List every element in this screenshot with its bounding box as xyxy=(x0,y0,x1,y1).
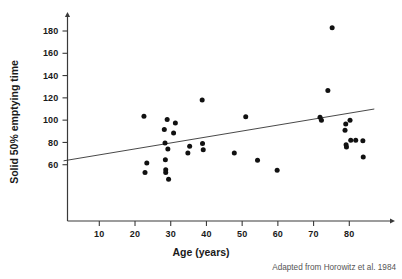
y-tick-label: 160 xyxy=(43,48,59,58)
data-point xyxy=(143,170,148,175)
data-point xyxy=(243,114,248,119)
data-point xyxy=(319,118,324,123)
data-point xyxy=(232,151,237,156)
data-point xyxy=(166,177,171,182)
y-tick-label: 180 xyxy=(43,26,59,36)
x-tick-label: 30 xyxy=(166,229,176,239)
data-point xyxy=(163,140,168,145)
data-point xyxy=(163,170,168,175)
y-tick-label: 80 xyxy=(48,138,58,148)
x-tick-label: 60 xyxy=(273,229,283,239)
data-point xyxy=(344,144,349,149)
data-point xyxy=(144,161,149,166)
x-tick-label: 70 xyxy=(308,229,318,239)
data-point xyxy=(343,122,348,127)
data-point xyxy=(200,98,205,103)
data-point xyxy=(325,88,330,93)
data-point xyxy=(348,118,353,123)
data-point xyxy=(200,141,205,146)
data-point xyxy=(165,117,170,122)
x-axis-title: Age (years) xyxy=(172,246,229,258)
data-point xyxy=(162,127,167,132)
data-point xyxy=(361,154,366,159)
data-point xyxy=(348,138,353,143)
y-axis-title: Solid 50% emptying time xyxy=(8,60,20,184)
data-point xyxy=(255,158,260,163)
data-point xyxy=(187,144,192,149)
x-tick-label: 50 xyxy=(237,229,247,239)
data-point xyxy=(353,138,358,143)
data-point xyxy=(141,114,146,119)
x-tick-label: 80 xyxy=(344,229,354,239)
data-point xyxy=(173,120,178,125)
data-point xyxy=(201,147,206,152)
data-point xyxy=(185,151,190,156)
data-point xyxy=(275,168,280,173)
data-point xyxy=(171,130,176,135)
source-attribution: Adapted from Horowitz et al. 1984 xyxy=(272,263,396,272)
scatter-plot-svg: 1020304050607080 6080100120140160180 Age… xyxy=(0,0,402,279)
scatter-chart-figure: 1020304050607080 6080100120140160180 Age… xyxy=(0,0,402,279)
y-tick-label: 120 xyxy=(43,93,59,103)
x-tick-label: 40 xyxy=(201,229,211,239)
y-tick-label: 140 xyxy=(43,71,59,81)
x-tick-label: 20 xyxy=(130,229,140,239)
x-tick-label: 10 xyxy=(94,229,104,239)
data-point xyxy=(343,128,348,133)
data-point xyxy=(330,25,335,30)
data-point xyxy=(360,138,365,143)
data-point xyxy=(163,157,168,162)
y-tick-label: 100 xyxy=(43,115,59,125)
data-point xyxy=(165,147,170,152)
y-tick-label: 60 xyxy=(48,160,58,170)
